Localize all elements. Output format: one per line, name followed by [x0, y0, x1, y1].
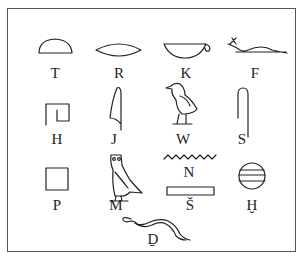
label-h: H — [52, 132, 63, 147]
horned-viper-icon — [228, 38, 287, 53]
label-p: P — [53, 198, 61, 213]
label-w: W — [176, 132, 190, 147]
folded-cloth-icon — [238, 88, 248, 137]
quail-chick-icon — [166, 83, 197, 124]
mouth-icon — [96, 44, 141, 56]
reed-leaf-icon — [110, 88, 121, 131]
stool-icon — [46, 168, 68, 190]
water-ripple-icon — [164, 155, 216, 159]
label-kh: Ḫ — [247, 198, 258, 213]
label-sh: Š — [186, 198, 194, 213]
label-s: S — [238, 132, 246, 147]
label-j: J — [111, 132, 117, 147]
owl-icon — [110, 155, 142, 201]
glyph-layer — [0, 0, 303, 260]
label-r: R — [114, 66, 124, 81]
label-dj: D̠ — [148, 232, 159, 247]
twisted-flax-icon — [46, 104, 69, 125]
label-n: N — [184, 165, 195, 180]
pool-icon — [167, 187, 214, 195]
basket-icon — [164, 44, 210, 58]
label-k: K — [181, 66, 192, 81]
bread-loaf-icon — [39, 39, 72, 53]
placenta-icon — [239, 163, 265, 189]
label-m: M — [109, 198, 122, 213]
label-f: F — [251, 66, 259, 81]
label-t: T — [50, 66, 59, 81]
